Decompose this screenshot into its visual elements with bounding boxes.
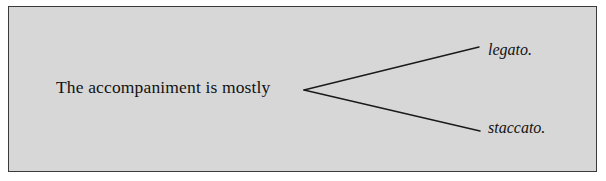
figure-screenshot: The accompaniment is mostly legato. stac…	[0, 0, 606, 181]
stem-text: The accompaniment is mostly	[56, 79, 271, 97]
branch-label-staccato: staccato.	[488, 120, 545, 136]
branch-label-legato: legato.	[488, 42, 532, 58]
